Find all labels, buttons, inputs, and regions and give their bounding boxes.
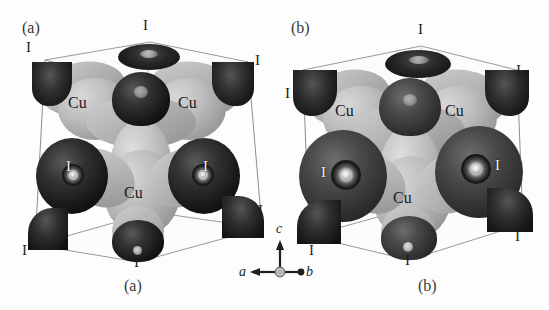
panel-caption-b: (b) (418, 278, 437, 294)
iodine-label-a-top-left: I (26, 40, 31, 55)
copper-label-a-center-lower: Cu (124, 185, 143, 201)
iodine-label-a-top-right: I (255, 53, 260, 68)
iodine-label-a-bottom-left: I (22, 243, 27, 258)
axis-label-c: c (276, 222, 282, 236)
iodine-label-b-mid-left: I (321, 165, 326, 180)
iodine-label-a-lower-right: I (258, 203, 263, 218)
iodine-label-a-top-center: I (143, 18, 148, 33)
copper-label-b-upper-left: Cu (335, 103, 354, 119)
iodine-label-b-right: I (516, 63, 521, 78)
copper-label-a-upper-left: Cu (68, 95, 87, 111)
panel-caption-a: (a) (124, 278, 142, 294)
iodine-label-a-mid-right: I (203, 159, 208, 174)
iodine-label-a-mid-left: I (66, 159, 71, 174)
iodine-label-b-top-center: I (418, 22, 423, 37)
copper-label-b-upper-right: Cu (445, 103, 464, 119)
figure-canvas: (a) I I I Cu Cu I I Cu I I I (a) (0, 0, 549, 310)
iodine-label-b-mid-right: I (495, 158, 500, 173)
copper-label-b-center-lower: Cu (393, 190, 412, 206)
iodine-label-a-bottom-center: I (134, 255, 139, 270)
iodine-label-b-left: I (285, 86, 290, 101)
iodine-label-b-bottom-right: I (515, 229, 520, 244)
iodine-surface-top-b (385, 50, 451, 78)
panel-tag-b: (b) (291, 20, 310, 36)
axis-label-a: a (239, 265, 246, 279)
panel-tag-a: (a) (22, 20, 40, 36)
axis-triad: c a b (240, 232, 318, 292)
copper-label-a-upper-right: Cu (178, 95, 197, 111)
panel-a: (a) I I I Cu Cu I I Cu I I I (a) (0, 0, 274, 310)
iodine-label-b-bottom-center: I (405, 253, 410, 268)
axis-label-b: b (306, 265, 313, 279)
